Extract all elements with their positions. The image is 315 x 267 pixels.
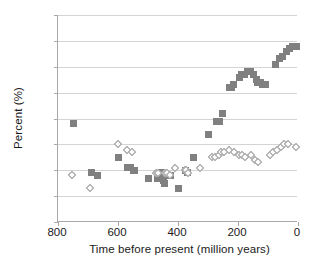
data-point-square — [244, 68, 251, 75]
data-point-diamond — [128, 148, 136, 156]
gridline — [58, 144, 297, 145]
data-point-diamond — [225, 145, 233, 153]
gridline — [58, 170, 297, 171]
y-tick-mark — [54, 93, 58, 94]
data-point-square — [167, 172, 174, 179]
gridline — [58, 41, 297, 42]
data-point-diamond — [254, 158, 262, 166]
y-tick-mark — [54, 119, 58, 120]
data-point-square — [253, 76, 260, 83]
plot-area — [57, 15, 297, 222]
data-point-diamond — [269, 148, 277, 156]
scatter-chart: Percent (%) Time before present (million… — [0, 0, 315, 267]
data-point-square — [276, 55, 283, 62]
data-point-square — [154, 175, 161, 182]
data-point-diamond — [241, 153, 249, 161]
data-point-square — [286, 45, 293, 52]
gridline — [58, 196, 297, 197]
data-point-square — [219, 110, 226, 117]
gridline — [58, 93, 297, 94]
data-point-diamond — [86, 184, 94, 192]
x-tick-label: 200 — [217, 226, 257, 238]
x-tick-label: 600 — [97, 226, 137, 238]
x-tick-label: 0 — [277, 226, 315, 238]
data-point-diamond — [165, 171, 173, 179]
data-point-diamond — [208, 153, 216, 161]
y-tick-mark — [54, 67, 58, 68]
data-point-square — [289, 43, 296, 50]
x-axis-label: Time before present (million years) — [57, 243, 302, 255]
data-point-diamond — [123, 145, 131, 153]
data-point-square — [115, 154, 122, 161]
data-point-square — [259, 81, 266, 88]
data-point-square — [262, 81, 269, 88]
data-point-square — [94, 172, 101, 179]
data-point-diamond — [220, 148, 228, 156]
data-point-square — [166, 172, 173, 179]
data-point-square — [160, 177, 167, 184]
data-point-diamond — [217, 148, 225, 156]
data-point-square — [279, 53, 286, 60]
data-point-diamond — [251, 156, 259, 164]
data-point-diamond — [68, 171, 76, 179]
data-point-square — [159, 172, 166, 179]
data-point-square — [257, 79, 264, 86]
data-point-square — [161, 180, 168, 187]
x-tick-label: 800 — [37, 226, 77, 238]
data-point-square — [293, 43, 300, 50]
data-point-square — [70, 120, 77, 127]
data-point-diamond — [230, 148, 238, 156]
data-point-diamond — [215, 150, 223, 158]
data-point-square — [165, 172, 172, 179]
data-point-square — [236, 74, 243, 81]
data-point-square — [190, 154, 197, 161]
data-point-diamond — [266, 150, 274, 158]
y-axis-label: Percent (%) — [12, 58, 24, 178]
data-point-square — [205, 131, 212, 138]
data-point-square — [175, 185, 182, 192]
data-point-square — [247, 68, 254, 75]
y-tick-mark — [54, 41, 58, 42]
x-tick-label: 400 — [157, 226, 197, 238]
data-point-square — [292, 43, 299, 50]
data-point-diamond — [235, 150, 243, 158]
gridline — [58, 67, 297, 68]
data-point-square — [241, 71, 248, 78]
data-point-square — [145, 175, 152, 182]
y-tick-mark — [54, 196, 58, 197]
y-axis-label-container: Percent (%) — [2, 18, 18, 218]
gridline — [58, 119, 297, 120]
y-tick-mark — [54, 144, 58, 145]
data-point-diamond — [211, 153, 219, 161]
gridline — [58, 15, 297, 16]
data-point-diamond — [273, 145, 281, 153]
data-point-square — [238, 71, 245, 78]
y-tick-mark — [54, 15, 58, 16]
data-point-diamond — [247, 150, 255, 158]
data-point-square — [228, 84, 235, 91]
data-point-square — [250, 71, 257, 78]
data-point-square — [254, 79, 261, 86]
y-tick-mark — [54, 170, 58, 171]
data-point-square — [226, 84, 233, 91]
data-point-diamond — [238, 150, 246, 158]
data-point-square — [283, 48, 290, 55]
data-point-square — [230, 81, 237, 88]
